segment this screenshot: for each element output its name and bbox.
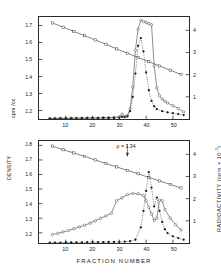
y-tick-label: 1.2	[25, 231, 32, 237]
right-tick-label: 1	[193, 94, 196, 100]
y-tick-label: 1.5	[25, 186, 32, 192]
right-tick-label: 3	[193, 173, 196, 179]
right-tick-label: 2	[193, 72, 196, 78]
x-tick-label: 40	[144, 122, 150, 128]
x-tick-label: 50	[171, 122, 177, 128]
x-tick-label: 10	[62, 246, 68, 252]
panel-b-svg	[39, 141, 189, 243]
y-tick-label: 1.5	[25, 56, 32, 62]
right-tick-label: 4	[193, 151, 196, 157]
panel-b-plot-area	[38, 140, 190, 244]
right-tick-label: 4	[193, 27, 196, 33]
right-tick-label: 2	[193, 196, 196, 202]
figure-container: 1.71.61.51.41.31.2 4321 1020304050 cpm /…	[0, 0, 221, 277]
x-tick-label: 50	[171, 246, 177, 252]
right-axis-label-close: )	[216, 146, 221, 148]
y-tick-label: 1.4	[25, 74, 32, 80]
panel-b-right-axis-ticks: 4321	[193, 140, 207, 244]
right-axis-exponent: -3	[214, 148, 219, 152]
y-tick-label: 1.3	[25, 216, 32, 222]
x-tick-label: 40	[144, 246, 150, 252]
right-axis-label-text: RADIOACTIVITY (cpm × 10	[216, 152, 221, 232]
panel-b-x-axis-ticks: 1020304050	[38, 246, 190, 254]
x-tick-label: 10	[62, 122, 68, 128]
y-tick-label: 1.8	[25, 141, 32, 147]
panel-a-plot-area	[38, 16, 190, 120]
x-tick-label: 20	[89, 122, 95, 128]
y-tick-label: 1.4	[25, 201, 32, 207]
y-tick-label: 1.3	[25, 91, 32, 97]
panel-a-x-axis-ticks: 1020304050	[38, 122, 190, 130]
y-tick-label: 1.2	[25, 108, 32, 114]
panel-a-right-axis-ticks: 4321	[193, 16, 207, 120]
panel-b-y-axis-label: DENSITY	[6, 156, 12, 180]
x-tick-label: 20	[89, 246, 95, 252]
panel-a-y-axis-label: cpm /cc	[10, 98, 16, 118]
y-tick-label: 1.6	[25, 171, 32, 177]
panel-a-svg	[39, 17, 189, 119]
right-tick-label: 3	[193, 49, 196, 55]
y-tick-label: 1.6	[25, 39, 32, 45]
y-tick-label: 1.7	[25, 22, 32, 28]
x-tick-label: 30	[116, 246, 122, 252]
right-tick-label: 1	[193, 218, 196, 224]
rho-annotation-label: ρ = 1.34	[117, 143, 136, 149]
y-tick-label: 1.7	[25, 156, 32, 162]
x-tick-label: 30	[116, 122, 122, 128]
x-axis-label: FRACTION NUMBER	[77, 258, 152, 264]
right-axis-label: RADIOACTIVITY (cpm × 10-3)	[214, 146, 221, 232]
